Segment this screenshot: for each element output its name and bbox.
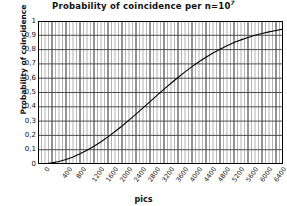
x-axis-title: pics <box>0 195 287 204</box>
chart-title: Probability of coincidence per n=107 <box>0 1 287 11</box>
plot-area <box>38 21 283 164</box>
x-tick-label: 2000 <box>119 166 134 184</box>
y-tick-label: 0,9 <box>25 32 36 39</box>
x-tick-label: 5200 <box>231 166 246 184</box>
x-tick-label: 400 <box>61 166 74 180</box>
x-tick-label: 1600 <box>105 166 120 184</box>
x-tick-label: 0 <box>44 166 52 173</box>
chart-title-text: Probability of coincidence per n=10 <box>52 1 230 11</box>
x-tick-label: 2800 <box>147 166 162 184</box>
y-tick-label: 0,1 <box>25 146 36 153</box>
y-tick-label: 0,8 <box>25 46 36 53</box>
chart-container: Probability of coincidence per n=107 Pro… <box>0 0 287 206</box>
y-tick-label: 1 <box>32 18 36 25</box>
x-tick-label: 4000 <box>189 166 204 184</box>
x-axis-tick-labels: 0400800120016002000240028003200360040004… <box>0 166 287 196</box>
x-tick-label: 2400 <box>133 166 148 184</box>
x-tick-label: 6400 <box>273 166 287 184</box>
y-axis-tick-labels: 00,10,20,30,40,50,60,70,80,91 <box>12 18 36 166</box>
x-tick-label: 3200 <box>161 166 176 184</box>
y-tick-label: 0,7 <box>25 60 36 67</box>
y-tick-label: 0,5 <box>25 89 36 96</box>
y-tick-label: 0,3 <box>25 118 36 125</box>
x-tick-label: 1200 <box>91 166 106 184</box>
x-tick-label: 4800 <box>217 166 232 184</box>
x-tick-label: 3600 <box>175 166 190 184</box>
y-tick-label: 0,6 <box>25 75 36 82</box>
y-tick-label: 0,2 <box>25 132 36 139</box>
x-tick-label: 6000 <box>259 166 274 184</box>
x-tick-label: 800 <box>75 166 88 180</box>
x-tick-label: 5600 <box>245 166 260 184</box>
y-tick-label: 0,4 <box>25 103 36 110</box>
x-tick-label: 4400 <box>203 166 218 184</box>
chart-title-exponent: 7 <box>231 0 235 6</box>
